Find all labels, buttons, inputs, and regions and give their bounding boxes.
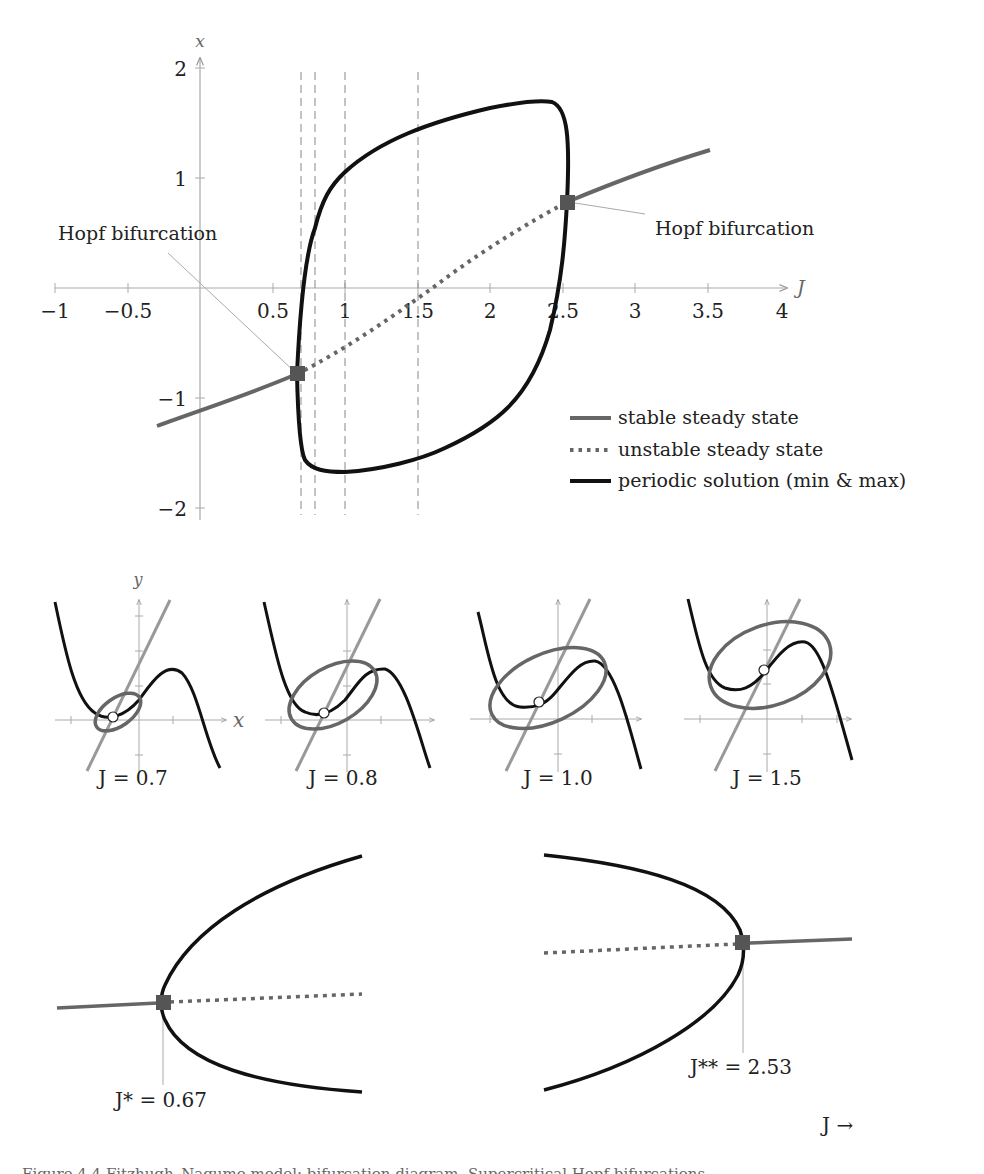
figure: −1 −0.5 0.5 1 1.5 2 2.5 3 3.5 4 2 1 −1 −…: [0, 0, 984, 1174]
phase-x-label: x: [233, 708, 244, 732]
linear-nullcline: [715, 599, 800, 771]
phase-panel-label: J = 0.7: [96, 766, 167, 790]
fixed-point-circle: [534, 697, 544, 707]
periodic-max-curve: [297, 101, 568, 374]
hopf-point-left: [290, 366, 305, 381]
phase-y-label: y: [132, 570, 143, 589]
phase-panel-label: J = 1.0: [521, 766, 592, 790]
hopf-sketch-left: J* = 0.67: [57, 856, 362, 1112]
phase-panel-label: J = 0.8: [306, 766, 377, 790]
cubic-nullcline: [55, 602, 220, 768]
legend-label-stable: stable steady state: [618, 406, 799, 428]
hopf-point: [735, 935, 750, 950]
legend-label-periodic: periodic solution (min & max): [618, 469, 906, 491]
unstable-branch: [544, 944, 736, 953]
stable-branch: [750, 939, 852, 943]
hopf-annotation-right: Hopf bifurcation: [655, 217, 814, 239]
x-axis-label: J: [793, 276, 806, 298]
j-direction-label: J →: [820, 1113, 853, 1137]
linear-nullcline: [506, 599, 590, 771]
unstable-branch: [170, 994, 362, 1002]
stable-branch: [57, 1003, 158, 1008]
linear-nullcline: [87, 600, 170, 771]
y-tick-label: 1: [174, 167, 187, 191]
x-tick-label: 0.5: [257, 299, 289, 323]
y-axis-label: x: [195, 31, 205, 51]
y-tick-label: −2: [158, 497, 187, 521]
cubic-nullcline: [478, 612, 641, 769]
phase-panel-j-1-0: J = 1.0: [470, 599, 641, 790]
hopf-point-right: [560, 195, 575, 210]
annotation-leader-right: [575, 203, 645, 214]
phase-panel-j-0-7: y x J = 0.7: [55, 570, 244, 790]
main-bifurcation-plot: −1 −0.5 0.5 1 1.5 2 2.5 3 3.5 4 2 1 −1 −…: [40, 31, 906, 521]
legend-label-unstable: unstable steady state: [618, 438, 823, 460]
linear-nullcline: [296, 599, 380, 771]
hopf-point: [156, 995, 171, 1010]
x-tick-label: −0.5: [104, 299, 153, 323]
x-tick-label: 3.5: [692, 299, 724, 323]
periodic-min-curve: [297, 202, 567, 472]
fixed-point-circle: [319, 708, 329, 718]
stable-branch-right: [567, 150, 710, 202]
j-star-label: J* = 0.67: [113, 1088, 207, 1112]
x-tick-label: 3: [629, 299, 642, 323]
hopf-sketch-right: J** = 2.53: [544, 855, 852, 1090]
periodic-branch: [161, 856, 362, 1092]
hopf-annotation-left: Hopf bifurcation: [58, 222, 217, 244]
phase-panel-j-0-8: J = 0.8: [264, 599, 434, 790]
phase-panel-label: J = 1.5: [730, 766, 801, 790]
figure-caption: Figure 4.4 Fitzhugh–Nagumo model: bifurc…: [22, 1163, 962, 1174]
y-tick-label: 2: [174, 57, 187, 81]
x-tick-label: −1: [40, 299, 69, 323]
phase-panel-j-1-5: J = 1.5: [684, 599, 852, 790]
x-tick-label: 2: [484, 299, 497, 323]
fixed-point-circle: [759, 665, 769, 675]
j-double-star-label: J** = 2.53: [688, 1055, 792, 1079]
legend: stable steady state unstable steady stat…: [570, 406, 906, 491]
fixed-point-circle: [108, 712, 118, 722]
x-tick-label: 4: [776, 299, 789, 323]
y-tick-label: −1: [158, 387, 187, 411]
